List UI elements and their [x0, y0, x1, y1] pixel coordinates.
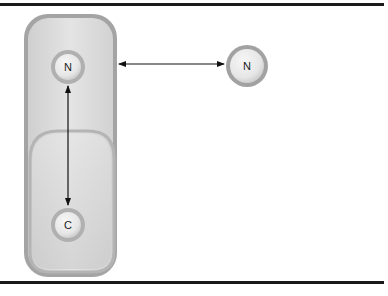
- c-bottom-label: C: [64, 219, 72, 231]
- node-n-free: N: [226, 45, 268, 87]
- n-top-label: N: [64, 61, 72, 73]
- node-n-top: N: [51, 50, 85, 84]
- node-c-bottom: C: [51, 208, 85, 242]
- diagram-canvas: N C N: [0, 0, 388, 296]
- n-free-label: N: [243, 60, 251, 72]
